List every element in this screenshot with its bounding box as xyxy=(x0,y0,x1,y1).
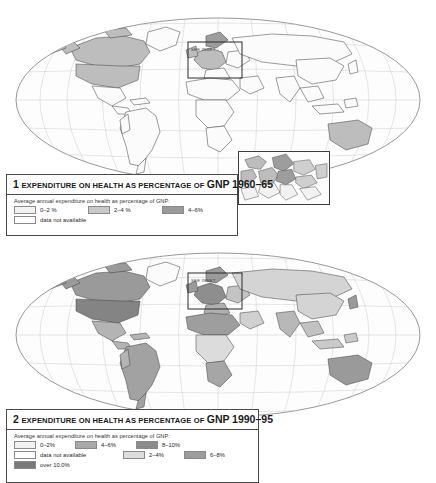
legend-label: 0–2 % xyxy=(40,207,57,213)
map-title-1: 1 Expenditure on health as percentage of… xyxy=(7,175,237,193)
legend-item: 4–6% xyxy=(75,441,132,449)
inset-locator-label-2: SEE INSET xyxy=(191,278,216,283)
world-map-2: SEE INSET xyxy=(0,243,436,428)
map-number-2: 2 xyxy=(13,413,19,425)
map-title-period-1: 1960–65 xyxy=(232,178,273,190)
legend-swatch xyxy=(14,451,36,459)
legend-panel-1: 1 Expenditure on health as percentage of… xyxy=(6,174,238,236)
legend-caption-2: Average annual expenditure on health as … xyxy=(7,430,258,441)
map-title-words-1: Expenditure on health as percentage of xyxy=(21,181,204,190)
world-map-1-svg: SEE INSET xyxy=(0,8,436,193)
map-title-subject-2: GNP xyxy=(207,413,230,425)
inset-locator-label-1: SEE INSET xyxy=(191,47,216,52)
legend-item: 2–4 % xyxy=(88,206,158,214)
world-map-1: SEE INSET xyxy=(0,8,436,193)
cropped-header-text xyxy=(55,0,355,5)
legend-swatch xyxy=(123,451,145,459)
legend-swatch xyxy=(14,206,36,214)
legend-swatch xyxy=(88,206,110,214)
map-title-words-2: Expenditure on health as percentage of xyxy=(21,416,204,425)
map-panel-2: SEE INSET xyxy=(0,243,436,483)
legend-item: 6–8% xyxy=(184,451,241,459)
legend-label: 0–2% xyxy=(40,442,55,448)
legend-swatch xyxy=(75,441,97,449)
legend-label: data not available xyxy=(40,217,86,223)
legend-item: 0–2% xyxy=(14,441,71,449)
page-root: SEE INSET xyxy=(0,0,436,483)
map-number-1: 1 xyxy=(13,178,19,190)
map-title-2: 2 Expenditure on health as percentage of… xyxy=(7,410,258,428)
legend-caption-1: Average annual expenditure on health as … xyxy=(7,195,237,206)
legend-item: 0–2 % xyxy=(14,206,84,214)
legend-label: 2–4% xyxy=(149,452,164,458)
legend-label: 2–4 % xyxy=(114,207,131,213)
legend-label: 4–6% xyxy=(188,207,203,213)
map-panel-1: SEE INSET xyxy=(0,8,436,236)
legend-item: data not available xyxy=(14,216,109,224)
legend-item: over 10.0% xyxy=(14,461,71,469)
legend-label: 4–6% xyxy=(101,442,116,448)
legend-item: 4–6% xyxy=(162,206,232,214)
map-title-period-2: 1990–95 xyxy=(232,413,273,425)
world-map-2-svg: SEE INSET xyxy=(0,243,436,428)
legend-swatch xyxy=(14,441,36,449)
map-title-subject-1: GNP xyxy=(207,178,230,190)
legend-swatch xyxy=(184,451,206,459)
legend-label: 6–8% xyxy=(210,452,225,458)
legend-swatch xyxy=(14,216,36,224)
legend-item: 2–4% xyxy=(123,451,180,459)
legend-swatch xyxy=(162,206,184,214)
legend-label: over 10.0% xyxy=(40,462,70,468)
legend-swatch xyxy=(14,461,36,469)
legend-item: data not available xyxy=(14,451,119,459)
legend-label: data not available xyxy=(40,452,86,458)
legend-swatches-2: 0–2% 4–6% 8–10% data not available 2–4% xyxy=(7,441,258,471)
legend-label: 8–10% xyxy=(162,442,180,448)
legend-item: 8–10% xyxy=(136,441,193,449)
legend-panel-2: 2 Expenditure on health as percentage of… xyxy=(6,409,259,483)
legend-swatch xyxy=(136,441,158,449)
legend-swatches-1: 0–2 % 2–4 % 4–6% data not available xyxy=(7,206,237,226)
